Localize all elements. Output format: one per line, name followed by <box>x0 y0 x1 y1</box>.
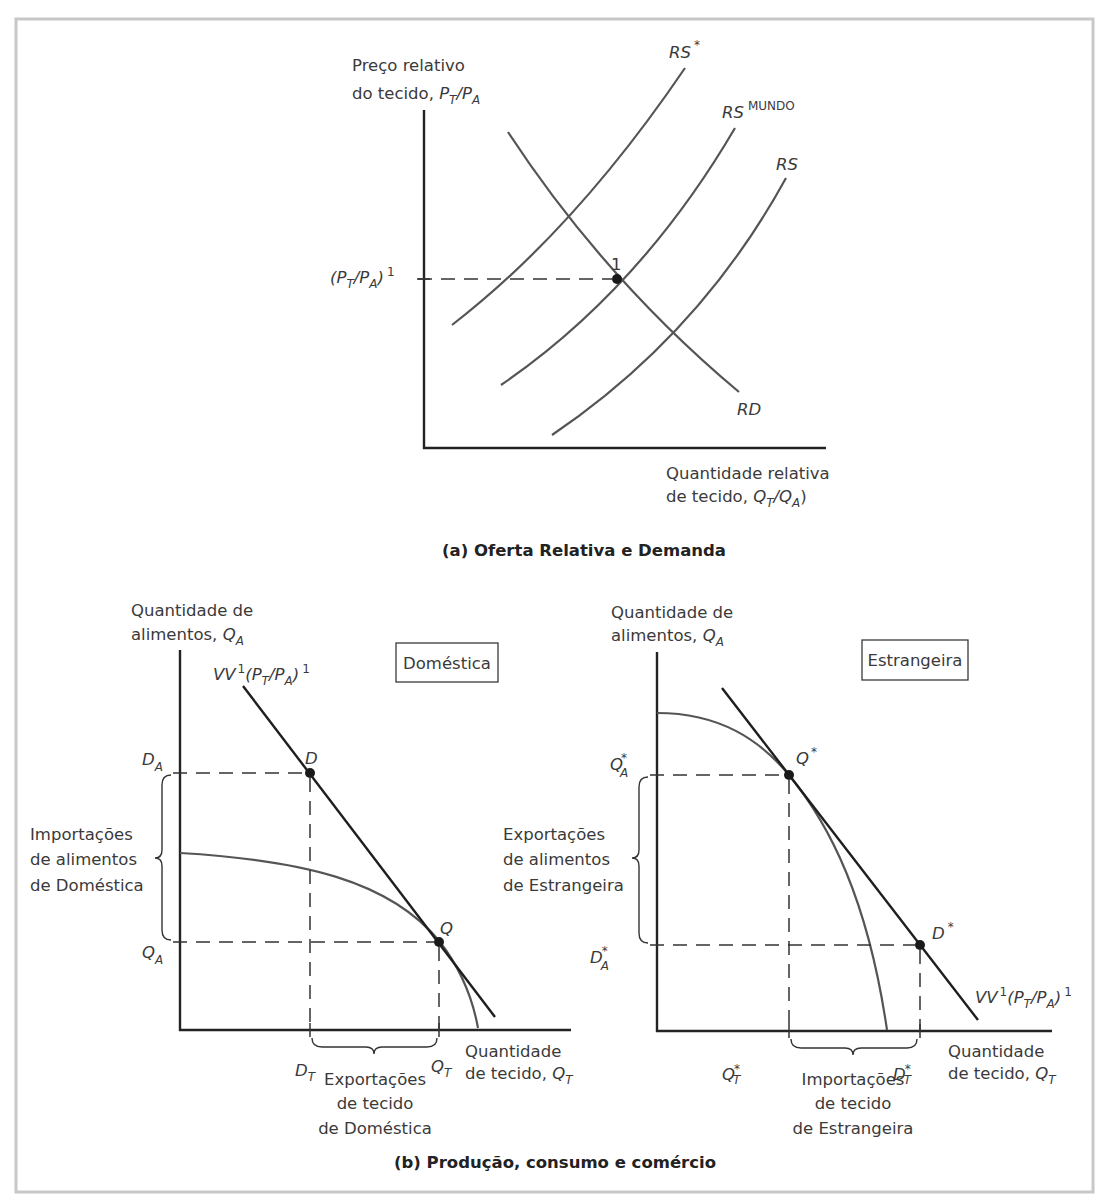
rs-home-curve <box>552 178 786 435</box>
foreign-food-exports-brace <box>632 777 648 943</box>
foreign-xlabel-line2: de tecido, QT <box>948 1064 1057 1087</box>
rs-star-curve <box>452 68 685 325</box>
rs-label: RS <box>776 155 798 174</box>
foreign-vv-label: VV1(PT/PA)1 <box>975 985 1072 1011</box>
home-vv-label: VV1(PT/PA)1 <box>213 662 310 688</box>
foreign-ylabel-line1: Quantidade de <box>611 603 733 622</box>
home-ylabel-line2: alimentos, QA <box>131 625 244 648</box>
home-qt-label: QT <box>431 1057 453 1080</box>
home-xlabel-line1: Quantidade <box>465 1042 561 1061</box>
home-vv-line <box>243 686 495 1017</box>
foreign-point-d-label: D* <box>932 920 954 943</box>
panel-b-title: (b) Produção, consumo e comércio <box>394 1153 716 1172</box>
panel-a-relative-supply-demand: Preço relativo do tecido, PT/PA Quantida… <box>330 38 830 560</box>
figure: Preço relativo do tecido, PT/PA Quantida… <box>0 0 1109 1202</box>
equilibrium-price-label: (PT/PA)1 <box>330 265 395 291</box>
home-point-q-label: Q <box>440 919 453 938</box>
foreign-consumption-point-d-star <box>915 940 925 950</box>
panel-a-ylabel-line2: do tecido, PT/PA <box>352 84 480 107</box>
foreign-qt-label: Q*T <box>722 1062 742 1087</box>
rs-star-label: RS* <box>669 38 700 62</box>
home-exports-line3: de Doméstica <box>318 1119 432 1138</box>
foreign-exports-line2: de alimentos <box>503 850 610 869</box>
foreign-qa-label: Q*A <box>610 751 628 780</box>
home-ylabel-line1: Quantidade de <box>131 601 253 620</box>
panel-a-ylabel-line1: Preço relativo <box>352 56 465 75</box>
panel-b-foreign: Quantidade de alimentos, QA Estrangeira … <box>503 603 1072 1138</box>
home-exports-line2: de tecido <box>337 1094 414 1113</box>
home-cloth-exports-brace <box>312 1038 437 1054</box>
home-dt-label: DT <box>295 1061 317 1084</box>
home-da-label: DA <box>142 750 163 774</box>
foreign-imports-line1: Importações <box>802 1070 905 1089</box>
foreign-vv-line <box>722 688 978 1020</box>
home-point-d-label: D <box>305 749 318 768</box>
home-imports-line1: Importações <box>30 825 133 844</box>
foreign-cloth-imports-brace <box>791 1039 917 1055</box>
home-imports-line2: de alimentos <box>30 850 137 869</box>
foreign-da-label: D*A <box>590 944 609 973</box>
panel-a-title: (a) Oferta Relativa e Demanda <box>442 541 726 560</box>
panel-a-xlabel-line1: Quantidade relativa <box>666 464 830 483</box>
foreign-box-label: Estrangeira <box>868 651 963 670</box>
home-ppf-curve <box>180 853 478 1028</box>
panel-b-home: Quantidade de alimentos, QA Doméstica VV… <box>30 601 574 1138</box>
foreign-ylabel-line2: alimentos, QA <box>611 626 724 649</box>
foreign-point-q-label: Q* <box>796 745 817 768</box>
foreign-imports-line3: de Estrangeira <box>793 1119 914 1138</box>
foreign-exports-line1: Exportações <box>503 825 605 844</box>
home-production-point-q <box>434 937 444 947</box>
panel-a-xlabel-line2: de tecido, QT/QA) <box>666 487 807 510</box>
equilibrium-point-label: 1 <box>611 255 622 274</box>
foreign-exports-line3: de Estrangeira <box>503 876 624 895</box>
foreign-production-point-q-star <box>784 770 794 780</box>
foreign-xlabel-line1: Quantidade <box>948 1042 1044 1061</box>
foreign-ppf-curve <box>657 713 887 1030</box>
home-consumption-point-d <box>305 768 315 778</box>
home-qa-label: QA <box>142 943 163 967</box>
equilibrium-point-1 <box>612 274 622 284</box>
rd-label: RD <box>737 400 761 419</box>
foreign-imports-line2: de tecido <box>815 1094 892 1113</box>
home-imports-line3: de Doméstica <box>30 876 144 895</box>
rs-world-label: RSMUNDO <box>722 99 795 122</box>
home-box-label: Doméstica <box>403 654 491 673</box>
home-exports-line1: Exportações <box>324 1070 426 1089</box>
home-food-imports-brace <box>155 775 171 940</box>
home-xlabel-line2: de tecido, QT <box>465 1064 574 1087</box>
